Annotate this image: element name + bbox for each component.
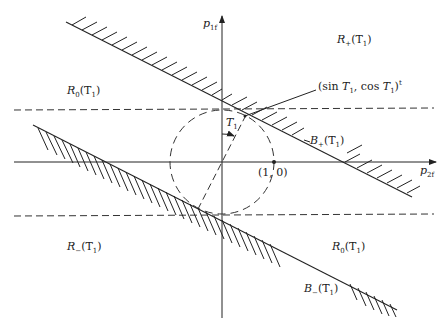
angle-label: T1 [226, 117, 238, 131]
region-r0-right-label: R0(T1) [332, 241, 365, 255]
region-r-plus-label: R+(T1) [337, 34, 372, 48]
region-r-minus-label: R−(T1) [67, 241, 102, 255]
unit-point-marker [272, 160, 276, 164]
boundary-b-plus-label: B+(T1) [310, 135, 344, 149]
b-minus-hatching [38, 128, 396, 317]
angle-arc [222, 134, 234, 136]
upper-dashed-line [14, 108, 434, 110]
boundary-b-minus-label: B−(T1) [304, 283, 338, 297]
tangent-point [244, 115, 247, 118]
x-axis-label: p2f [420, 165, 434, 179]
y-axis-label: p1f [203, 18, 217, 32]
unit-point-label: (1, 0) [258, 167, 288, 178]
region-r0-left-label: R0(T1) [67, 85, 100, 99]
diagram-canvas [0, 0, 444, 321]
tangent-point-label: (sin T1, cos T1)t [318, 80, 402, 95]
